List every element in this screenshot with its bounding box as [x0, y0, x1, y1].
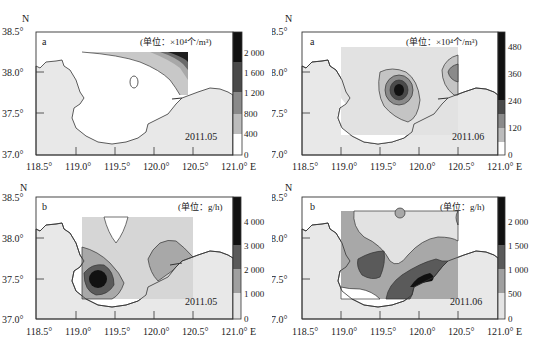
xtick: 121.0° E — [221, 326, 256, 337]
xtick: 120.5° — [182, 326, 209, 337]
xtick: 118.5° — [292, 161, 318, 172]
xtick: 120.0° — [143, 326, 170, 337]
panel-letter: b — [42, 201, 47, 212]
panel-b-2011-06: N 38.5° 38.0° 37.5° 37.0° b (单位：g/h) 201… — [272, 175, 544, 349]
xtick: 118.5° — [26, 326, 52, 337]
ytick: 37.0° — [272, 314, 288, 325]
panel-b-2011-05: N 38.5° 38.0° 37.5° 37.0° b (单位：g/h) 201… — [0, 175, 272, 349]
cb-tick: 0 — [508, 150, 513, 160]
cb-tick: 800 — [244, 109, 258, 119]
cb-tick: 0 — [244, 150, 249, 160]
xtick: 120.0° — [409, 326, 436, 337]
cb-tick: 400 — [244, 129, 258, 139]
cb-tick: 240 — [508, 96, 522, 106]
xtick: 119.5° — [370, 161, 396, 172]
cb-tick: 1 200 — [244, 88, 265, 98]
cb-tick: 360 — [508, 69, 522, 79]
panel-a-2011-06: N 38.5° 38.0° 37.5° 37.0° a (单位：×10⁴个/m³… — [272, 0, 544, 175]
date-label: 2011.05 — [185, 296, 217, 307]
ytick: 38.0° — [272, 67, 288, 78]
cb-tick: 2 000 — [508, 217, 529, 227]
cb-tick: 1 600 — [244, 68, 265, 78]
cb-tick: 500 — [508, 289, 522, 299]
xtick: 119.0° — [65, 326, 91, 337]
ytick: 38.0° — [2, 233, 24, 244]
ytick: 37.5° — [2, 108, 24, 119]
cb-tick: 1 500 — [508, 241, 529, 251]
unit-label: (单位：g/h) — [440, 201, 485, 212]
ytick: 38.0° — [272, 233, 288, 244]
ytick: 37.0° — [272, 149, 288, 160]
panel-a-2011-05: N 38.5° 38.0° 37.5° 37.0° a (单位：×10⁴个/m³… — [0, 0, 272, 175]
xtick: 119.5° — [104, 161, 130, 172]
cb-tick: 1 000 — [244, 289, 265, 299]
unit-label: (单位：g/h) — [178, 201, 223, 212]
ytick: 37.5° — [272, 274, 288, 285]
colorbar — [498, 197, 505, 319]
xtick: 121.0° E — [487, 161, 522, 172]
cb-tick: 2 000 — [244, 48, 265, 58]
ytick: 38.5° — [272, 192, 288, 203]
ytick: 38.0° — [2, 67, 24, 78]
ytick: 37.0° — [2, 149, 24, 160]
xtick: 119.0° — [65, 161, 91, 172]
date-label: 2011.06 — [450, 296, 482, 307]
cb-tick: 0 — [244, 314, 249, 324]
cb-tick: 120 — [508, 123, 522, 133]
cb-tick: 1 000 — [508, 265, 529, 275]
xtick: 118.5° — [292, 326, 318, 337]
colorbar — [233, 197, 241, 319]
unit-label: (单位：×10⁴个/m³) — [140, 36, 211, 47]
panel-letter: b — [310, 201, 315, 212]
ytick: 37.5° — [2, 274, 24, 285]
cb-tick: 2 000 — [244, 265, 265, 275]
colorbar — [498, 32, 505, 155]
date-label: 2011.05 — [185, 131, 217, 142]
cb-tick: 480 — [508, 42, 522, 52]
north-label: N — [22, 13, 29, 24]
unit-label: (单位：×10⁴个/m³) — [406, 36, 477, 47]
xtick: 119.0° — [331, 326, 357, 337]
north-label: N — [285, 13, 292, 24]
xtick: 120.5° — [448, 161, 475, 172]
ytick: 38.5° — [2, 26, 24, 37]
xtick: 120.5° — [182, 161, 209, 172]
xtick: 120.0° — [409, 161, 436, 172]
xtick: 118.5° — [26, 161, 52, 172]
xtick: 121.0° E — [487, 326, 522, 337]
ytick: 37.5° — [272, 108, 288, 119]
cb-tick: 3 000 — [244, 241, 265, 251]
cb-tick: 4 000 — [244, 217, 265, 227]
xtick: 119.5° — [104, 326, 130, 337]
xtick: 119.5° — [370, 326, 396, 337]
panel-letter: a — [310, 36, 315, 47]
colorbar — [233, 32, 242, 155]
ytick: 38.5° — [272, 26, 288, 37]
panel-letter: a — [42, 36, 47, 47]
ytick: 37.0° — [2, 314, 24, 325]
xtick: 121.0° E — [221, 161, 256, 172]
xtick: 120.5° — [448, 326, 475, 337]
cb-tick: 0 — [508, 314, 513, 324]
ytick: 38.5° — [2, 192, 24, 203]
xtick: 119.0° — [331, 161, 357, 172]
xtick: 120.0° — [143, 161, 170, 172]
date-label: 2011.06 — [452, 131, 484, 142]
